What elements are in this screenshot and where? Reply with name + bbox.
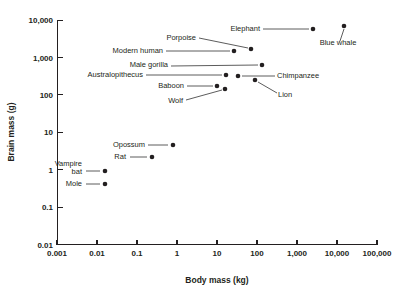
data-point-label: Modern human — [113, 46, 163, 55]
leader-line — [186, 90, 222, 100]
data-point-label: Chimpanzee — [277, 71, 319, 80]
data-point-label: Wolf — [168, 96, 184, 105]
data-point-labels: MoleVampirebatRatOpossumWolfBaboonLionAu… — [55, 24, 357, 188]
data-point-marker — [171, 143, 176, 148]
x-tick-label: 100,000 — [363, 249, 392, 258]
data-point-label: Porpoise — [166, 33, 196, 42]
y-tick-label: 0.01 — [37, 241, 53, 250]
x-tick-label: 1,000 — [287, 249, 308, 258]
data-point-label: Blue whale — [320, 38, 357, 47]
leader-line — [199, 38, 248, 48]
x-tick-label: 10,000 — [325, 249, 350, 258]
x-tick-label: 100 — [250, 249, 264, 258]
data-point-marker — [311, 27, 316, 32]
data-point-marker — [150, 155, 155, 160]
x-axis-ticks: 0.0010.010.11101001,00010,000100,000 — [47, 240, 392, 259]
data-point-marker — [342, 24, 347, 29]
data-point-label: Elephant — [230, 24, 261, 33]
y-axis-title: Brain mass (g) — [6, 102, 16, 161]
x-tick-label: 0.001 — [47, 249, 68, 258]
data-point-marker — [236, 74, 241, 79]
chart-figure: 0.0010.010.11101001,00010,000100,000 0.0… — [0, 0, 394, 293]
scatter-plot: 0.0010.010.11101001,00010,000100,000 0.0… — [0, 0, 394, 293]
data-point-label: Baboon — [158, 81, 184, 90]
data-point-marker — [260, 63, 265, 68]
data-point-label: Lion — [278, 90, 292, 99]
axes — [57, 20, 377, 245]
data-point-label: Australopithecus — [88, 70, 144, 79]
data-point-marker — [223, 87, 228, 92]
y-tick-label: 10,000 — [29, 16, 54, 25]
x-tick-label: 1 — [175, 249, 180, 258]
data-point-marker — [103, 182, 108, 187]
data-point-label: Mole — [66, 179, 82, 188]
leader-line — [258, 82, 277, 93]
data-point-marker — [215, 84, 220, 89]
data-point-label: Rat — [114, 152, 127, 161]
data-point-label: Opossum — [113, 140, 145, 149]
data-point-marker — [224, 73, 229, 78]
data-point-marker — [253, 78, 258, 83]
y-tick-label: 100 — [40, 91, 54, 100]
leader-line — [171, 65, 258, 66]
y-tick-label: 1,000 — [33, 54, 54, 63]
y-tick-label: 0.1 — [42, 203, 54, 212]
x-tick-label: 0.1 — [131, 249, 143, 258]
data-point-marker — [103, 169, 108, 174]
data-point-label: Male gorilla — [130, 60, 169, 69]
y-tick-label: 10 — [44, 128, 53, 137]
y-tick-label: 1 — [49, 166, 54, 175]
data-point-marker — [232, 49, 237, 54]
data-point-label: bat — [72, 167, 83, 176]
data-point-marker — [249, 47, 254, 52]
x-tick-label: 10 — [213, 249, 222, 258]
x-axis-title: Body mass (kg) — [185, 275, 248, 285]
x-tick-label: 0.01 — [89, 249, 105, 258]
